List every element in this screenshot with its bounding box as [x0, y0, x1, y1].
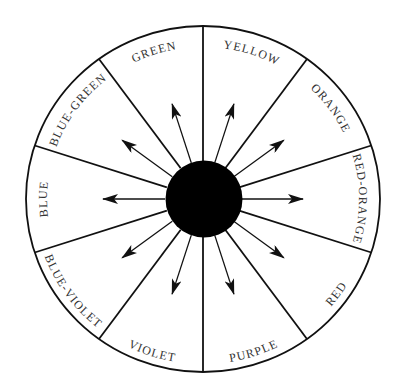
sector-label-orange: ORANGE: [308, 81, 354, 135]
divider-line: [35, 146, 167, 188]
sector-label-blue-green: BLUE-GREEN: [46, 70, 109, 148]
sector-label-blue-violet: BLUE-VIOLET: [42, 252, 105, 331]
divider-line: [225, 230, 307, 339]
sector-label-green: GREEN: [129, 38, 177, 65]
divider-line: [99, 59, 181, 168]
arrow-icon-violet: [172, 235, 191, 294]
sector-label-violet: VIOLET: [126, 337, 177, 365]
divider-line: [239, 146, 371, 188]
sector-label-red: RED: [323, 279, 350, 309]
divider-line: [99, 230, 181, 339]
color-wheel-svg: RED-ORANGE ORANGE YELLOW GREEN BLUE-GREE…: [0, 0, 403, 390]
center-hub: [166, 161, 243, 238]
arrow-icon-yellow: [215, 104, 234, 163]
color-wheel-diagram: RED-ORANGE ORANGE YELLOW GREEN BLUE-GREE…: [0, 0, 403, 390]
sector-label-blue: BLUE: [36, 180, 51, 218]
divider-line: [239, 211, 371, 253]
divider-line: [225, 59, 307, 168]
sector-label-yellow: YELLOW: [223, 37, 283, 68]
sector-label-red-orange: RED-ORANGE: [350, 152, 371, 246]
divider-line: [35, 211, 167, 253]
arrow-icon-green: [172, 104, 191, 163]
arrow-icon-purple: [215, 235, 234, 294]
sector-label-purple: PURPLE: [228, 336, 280, 364]
